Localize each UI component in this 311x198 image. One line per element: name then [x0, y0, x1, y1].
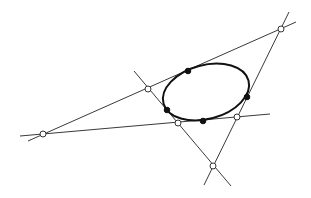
tangent-right-point: [244, 94, 250, 100]
intersection-point-bottom: [210, 163, 216, 169]
tangent-top-point: [185, 68, 191, 74]
intersection-point-top-right: [278, 26, 284, 32]
tangent-bottom-point: [200, 118, 206, 124]
intersection-point-lower-right: [234, 114, 240, 120]
tangent-left-point: [164, 107, 170, 113]
ellipse-group: [157, 55, 256, 130]
bottom-line: [20, 114, 270, 136]
lines-group: [20, 12, 296, 186]
geometry-diagram: [0, 0, 311, 198]
intersection-point-far-left: [40, 131, 46, 137]
intersection-point-upper-left: [145, 86, 151, 92]
inscribed-ellipse: [157, 55, 256, 130]
intersection-point-lower-middle: [175, 120, 181, 126]
